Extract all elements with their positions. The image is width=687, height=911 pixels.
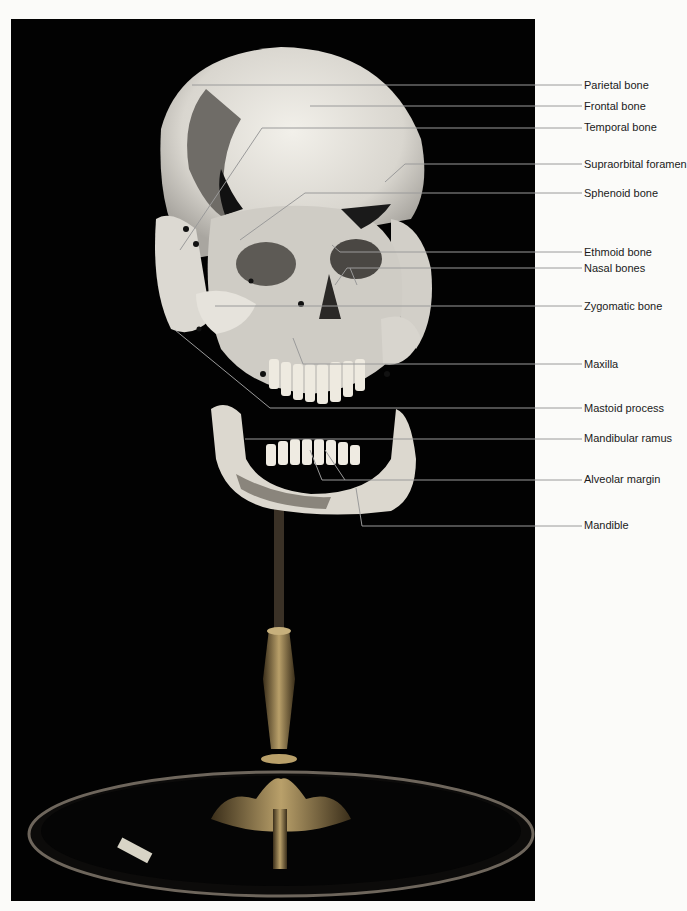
label-supraorbital-foramen: Supraorbital foramen bbox=[584, 158, 687, 171]
label-mastoid-process: Mastoid process bbox=[584, 402, 664, 415]
label-temporal-bone: Temporal bone bbox=[584, 121, 657, 134]
label-nasal-bones: Nasal bones bbox=[584, 262, 645, 275]
label-mandibular-ramus: Mandibular ramus bbox=[584, 432, 672, 445]
label-ethmoid-bone: Ethmoid bone bbox=[584, 246, 652, 259]
label-parietal-bone: Parietal bone bbox=[584, 79, 649, 92]
label-mandible: Mandible bbox=[584, 519, 629, 532]
skull-illustration bbox=[11, 19, 535, 901]
skull-photograph bbox=[11, 19, 535, 901]
label-maxilla: Maxilla bbox=[584, 358, 618, 371]
label-zygomatic-bone: Zygomatic bone bbox=[584, 300, 662, 313]
label-alveolar-margin: Alveolar margin bbox=[584, 473, 660, 486]
label-frontal-bone: Frontal bone bbox=[584, 100, 646, 113]
label-sphenoid-bone: Sphenoid bone bbox=[584, 187, 658, 200]
